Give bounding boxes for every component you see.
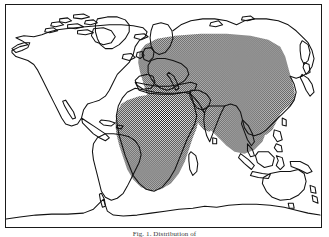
figure-caption: Fig. 1. Distribution of xyxy=(0,230,329,237)
world-map-icon xyxy=(6,5,321,227)
distribution-map-figure: Fig. 1. Distribution of xyxy=(0,0,329,237)
map-frame xyxy=(5,4,322,228)
